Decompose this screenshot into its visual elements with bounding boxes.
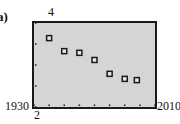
- x-axis-max-label: 2010: [157, 99, 180, 114]
- data-point-marker: [77, 50, 82, 55]
- data-point-marker: [47, 36, 52, 41]
- data-point-marker: [92, 57, 97, 62]
- x-tick-mark: [48, 105, 50, 107]
- x-tick-mark: [79, 105, 81, 107]
- x-tick-mark: [154, 105, 155, 107]
- y-tick-mark: [35, 43, 37, 45]
- panel-label: a): [0, 9, 8, 25]
- data-point-marker: [107, 71, 112, 76]
- x-tick-mark: [94, 105, 96, 107]
- x-tick-mark: [139, 105, 141, 107]
- x-tick-mark: [124, 105, 126, 107]
- y-tick-mark: [35, 106, 37, 107]
- y-axis-max-label: 4: [48, 5, 54, 20]
- y-tick-mark: [35, 23, 37, 24]
- scatter-plot-area: [32, 21, 157, 109]
- data-point-marker: [134, 78, 139, 83]
- y-axis-min-label: 2: [34, 108, 40, 123]
- data-point-marker: [122, 76, 127, 81]
- x-tick-mark: [34, 105, 35, 107]
- data-point-marker: [62, 49, 67, 54]
- y-tick-mark: [35, 64, 37, 66]
- scatter-plot-svg: [34, 23, 155, 107]
- x-axis-min-label: 1930: [5, 99, 29, 114]
- x-tick-mark: [109, 105, 111, 107]
- y-tick-mark: [35, 85, 37, 87]
- x-tick-mark: [64, 105, 66, 107]
